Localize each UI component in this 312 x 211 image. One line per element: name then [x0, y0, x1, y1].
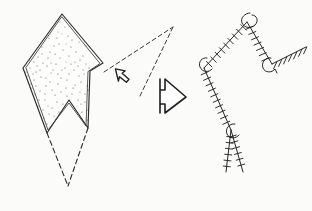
transition-arrows [104, 27, 186, 113]
stippled-crystal [23, 14, 103, 186]
crystal-body-fill [23, 14, 103, 133]
cursor-arrow-up-left [111, 65, 131, 86]
block-arrow-shape [160, 79, 186, 113]
diagram-canvas [0, 0, 312, 211]
segment-lower-left-ticks [201, 72, 230, 125]
segment-lower-left-spine [204, 68, 231, 130]
cursor-arrow-shape [111, 65, 131, 86]
segment-far-right [272, 47, 307, 69]
block-arrow-right [160, 79, 186, 113]
segment-upper-left [204, 22, 247, 68]
figure-root: Hand-drawn crystal and ticked-polyline s… [0, 0, 312, 211]
segment-upper-left-ticks [207, 25, 247, 67]
ticked-polyline [199, 13, 306, 172]
crystal-dashed-edge-left [47, 133, 68, 186]
crystal-dashed-edge-right [68, 128, 88, 186]
segment-lower-left [201, 68, 231, 130]
segment-far-right-ticks [274, 47, 307, 69]
segment-upper-right-ticks [246, 26, 269, 61]
